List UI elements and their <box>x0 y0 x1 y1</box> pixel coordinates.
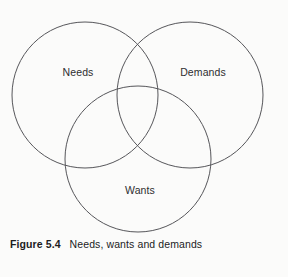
venn-label-wants: Wants <box>125 185 155 196</box>
venn-circle-needs <box>12 22 158 168</box>
venn-diagram-svg <box>0 0 288 236</box>
figure-container: Needs Demands Wants Figure 5.4Needs, wan… <box>0 0 288 277</box>
venn-circle-demands <box>117 22 263 168</box>
figure-caption-number: Figure 5.4 <box>10 238 61 250</box>
figure-caption: Figure 5.4Needs, wants and demands <box>10 238 278 252</box>
figure-caption-text: Needs, wants and demands <box>70 238 203 250</box>
venn-label-needs: Needs <box>63 67 94 78</box>
venn-diagram: Needs Demands Wants <box>0 0 288 236</box>
venn-label-demands: Demands <box>180 67 226 78</box>
venn-circle-wants <box>65 86 211 232</box>
